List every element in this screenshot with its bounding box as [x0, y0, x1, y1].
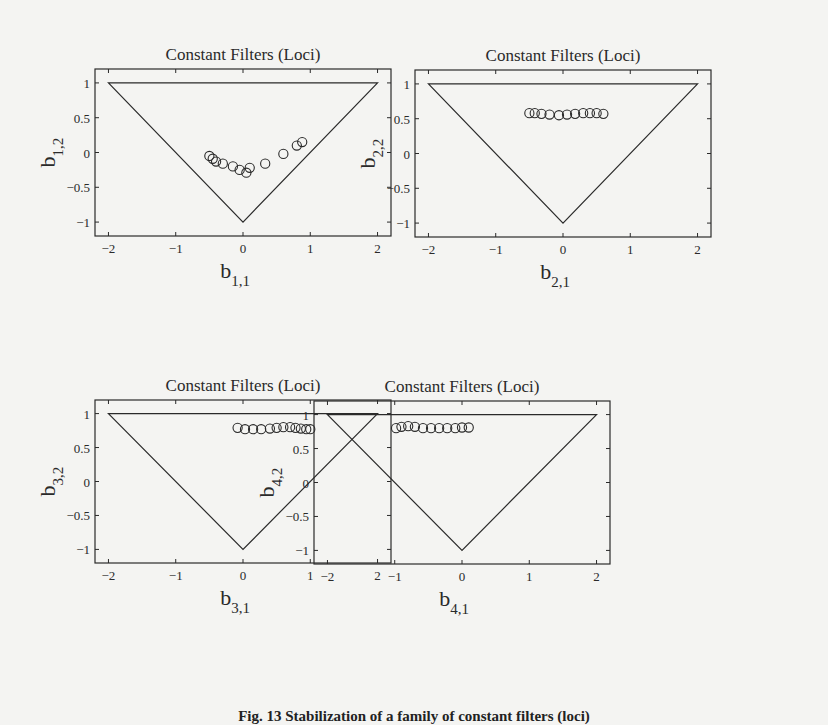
y-axis-label: b3,2: [35, 467, 66, 497]
y-tick-label: −0.5: [66, 180, 90, 195]
x-tick-label: 2: [694, 242, 701, 257]
x-tick-label: −2: [321, 569, 335, 584]
x-tick-label: 0: [560, 242, 567, 257]
x-tick-label: −1: [489, 242, 503, 257]
x-tick-label: −1: [388, 569, 402, 584]
y-tick-label: 0: [84, 475, 91, 490]
plot-panel-2: Constant Filters (Loci)−2−1012−1−0.500.5…: [355, 46, 711, 290]
plot-panel-1: Constant Filters (Loci)−2−1012−1−0.500.5…: [35, 45, 391, 289]
y-tick-label: 0.5: [394, 112, 410, 127]
chart-title: Constant Filters (Loci): [486, 46, 641, 65]
x-tick-label: 2: [593, 569, 600, 584]
y-tick-label: 1: [404, 77, 411, 92]
x-tick-label: 2: [374, 241, 381, 256]
x-tick-label: −2: [102, 241, 116, 256]
y-tick-label: 0: [84, 146, 91, 161]
y-tick-label: 1: [84, 407, 91, 422]
x-axis-label: b4,1: [439, 586, 469, 617]
x-tick-label: 1: [627, 242, 634, 257]
y-tick-label: −0.5: [285, 509, 309, 524]
y-tick-label: −0.5: [66, 508, 90, 523]
y-tick-label: 1: [84, 76, 91, 91]
axes-frame: [415, 70, 711, 237]
y-tick-label: −0.5: [386, 181, 410, 196]
y-axis-label: b1,2: [35, 138, 66, 168]
stability-triangle: [108, 414, 377, 550]
chart-title: Constant Filters (Loci): [166, 376, 321, 395]
axes-frame: [95, 400, 391, 563]
figure-caption: Fig. 13 Stabilization of a family of con…: [0, 708, 828, 725]
y-tick-label: −1: [76, 215, 90, 230]
y-axis-label: b4,2: [254, 468, 285, 498]
chart-title: Constant Filters (Loci): [385, 377, 540, 396]
x-axis-label: b1,1: [220, 258, 250, 289]
plot-panel-3: Constant Filters (Loci)−2−1012−1−0.500.5…: [35, 376, 391, 616]
x-tick-label: −2: [422, 242, 436, 257]
y-tick-label: 0.5: [293, 442, 309, 457]
axes-frame: [95, 69, 391, 236]
x-tick-label: −1: [169, 241, 183, 256]
x-tick-label: 1: [307, 241, 314, 256]
y-tick-label: −1: [76, 542, 90, 557]
x-tick-label: 0: [240, 568, 247, 583]
data-point: [302, 425, 311, 434]
data-point: [599, 109, 608, 118]
y-tick-label: 0: [404, 147, 411, 162]
data-point: [525, 109, 534, 118]
stability-triangle: [108, 83, 377, 222]
y-axis-label: b2,2: [355, 139, 386, 169]
data-point: [261, 159, 270, 168]
x-tick-label: 1: [526, 569, 533, 584]
x-tick-label: 0: [240, 241, 247, 256]
x-tick-label: 2: [374, 568, 381, 583]
x-axis-label: b2,1: [540, 259, 570, 290]
stability-triangle: [327, 415, 596, 551]
y-tick-label: 1: [303, 408, 310, 423]
y-tick-label: 0: [303, 476, 310, 491]
chart-title: Constant Filters (Loci): [166, 45, 321, 64]
axes-frame: [314, 401, 610, 564]
data-point: [279, 149, 288, 158]
x-tick-label: 0: [459, 569, 466, 584]
data-point: [464, 423, 473, 432]
stability-triangle: [428, 84, 697, 223]
y-tick-label: 0.5: [74, 111, 90, 126]
x-axis-label: b3,1: [220, 585, 250, 616]
x-tick-label: 1: [307, 568, 314, 583]
y-tick-label: 0.5: [74, 441, 90, 456]
x-tick-label: −1: [169, 568, 183, 583]
x-tick-label: −2: [102, 568, 116, 583]
y-tick-label: −1: [396, 216, 410, 231]
y-tick-label: −1: [295, 543, 309, 558]
